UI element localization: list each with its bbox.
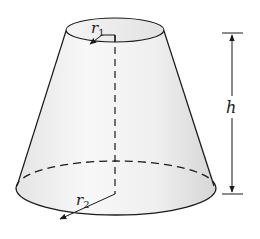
height-label: h	[226, 98, 236, 117]
frustum-diagram: r1 r2 h	[0, 0, 260, 239]
height-dimension: h	[222, 33, 243, 194]
frustum-body	[16, 30, 216, 215]
